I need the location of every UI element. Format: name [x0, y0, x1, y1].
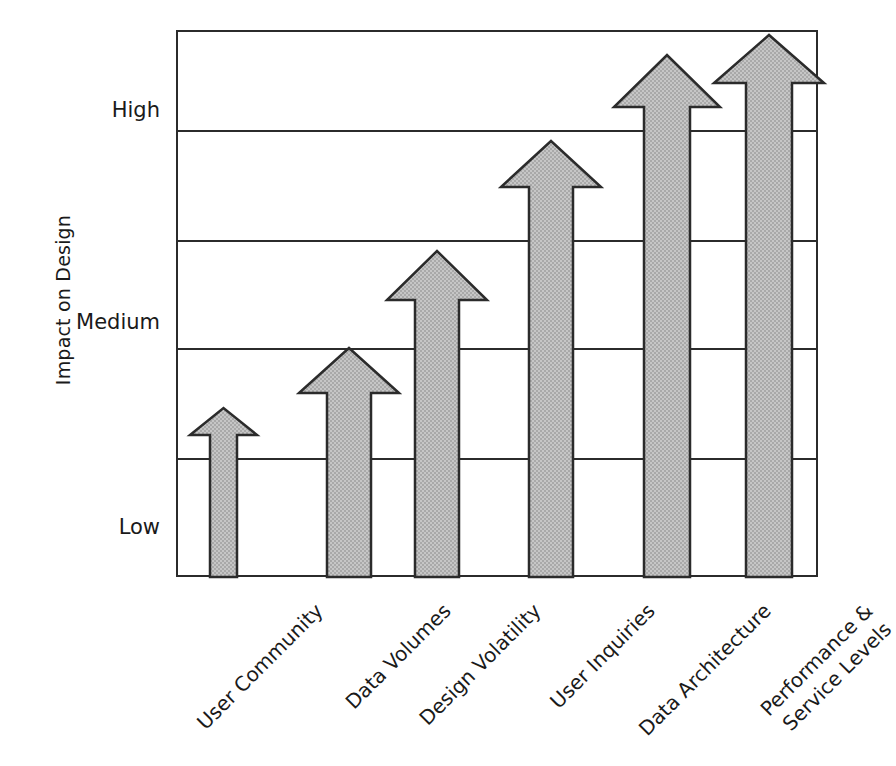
arrow-data-volumes	[299, 348, 399, 577]
y-axis-title: Impact on Design	[46, 40, 80, 560]
y-tick-label-low: Low	[119, 514, 160, 540]
y-tick-label-medium: Medium	[76, 309, 160, 335]
arrow-data-architecture	[614, 55, 720, 577]
arrows-svg	[176, 30, 818, 577]
arrow-user-inquiries	[501, 141, 601, 577]
x-label-performance-service-levels: Performance & Service Levels	[697, 598, 896, 766]
arrow-user-community	[190, 408, 257, 577]
arrows-layer	[176, 30, 818, 577]
y-tick-label-high: High	[112, 97, 160, 123]
arrow-performance-service-levels	[714, 35, 824, 577]
arrow-design-volatility	[387, 251, 487, 577]
